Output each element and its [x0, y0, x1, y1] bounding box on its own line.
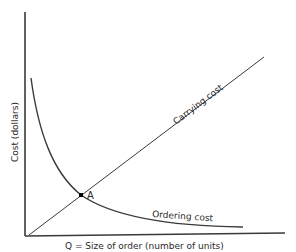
y-axis-label: Cost (dollars) — [10, 102, 20, 162]
carrying-cost-label: Carrying cost — [171, 82, 225, 126]
carrying-cost-line — [29, 57, 264, 235]
eoq-diagram: A Carrying cost Ordering cost Cost (doll… — [0, 0, 296, 252]
point-a-label: A — [87, 190, 94, 201]
intersection-point — [79, 193, 83, 197]
x-axis — [25, 233, 285, 236]
x-axis-label: Q = Size of order (number of units) — [65, 241, 224, 251]
